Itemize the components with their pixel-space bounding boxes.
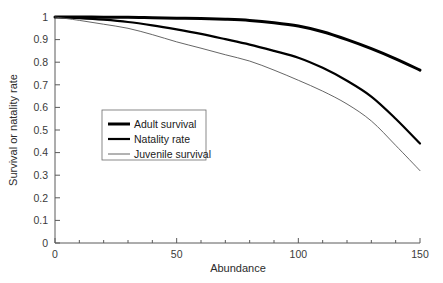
- y-axis-tick-labels: 00.10.20.30.40.50.60.70.80.91: [33, 11, 48, 249]
- y-tick-label: 1: [42, 11, 48, 23]
- y-tick-label: 0.7: [33, 79, 48, 91]
- legend-label: Adult survival: [134, 118, 196, 130]
- x-tick-label: 150: [411, 248, 429, 260]
- legend-label: Natality rate: [134, 133, 190, 145]
- y-tick-label: 0.4: [33, 146, 48, 158]
- y-tick-label: 0.2: [33, 192, 48, 204]
- y-tick-label: 0.9: [33, 33, 48, 45]
- y-axis-ticks: [55, 17, 60, 243]
- x-tick-label: 100: [290, 248, 308, 260]
- y-tick-label: 0.1: [33, 214, 48, 226]
- y-tick-label: 0.6: [33, 101, 48, 113]
- line-chart: 050100150 00.10.20.30.40.50.60.70.80.91 …: [0, 0, 443, 283]
- chart-figure: 050100150 00.10.20.30.40.50.60.70.80.91 …: [0, 0, 443, 283]
- chart-legend: Adult survivalNatality rateJuvenile surv…: [102, 110, 211, 160]
- x-tick-label: 0: [52, 248, 58, 260]
- x-axis-ticks: [55, 238, 420, 243]
- x-axis-tick-labels: 050100150: [52, 248, 429, 260]
- y-tick-label: 0.5: [33, 124, 48, 136]
- y-tick-label: 0.3: [33, 169, 48, 181]
- legend-label: Juvenile survival: [134, 148, 211, 160]
- y-tick-label: 0.8: [33, 56, 48, 68]
- y-tick-label: 0: [42, 237, 48, 249]
- x-axis-title: Abundance: [210, 262, 266, 274]
- x-tick-label: 50: [171, 248, 183, 260]
- y-axis-title: Survival or natality rate: [7, 74, 19, 186]
